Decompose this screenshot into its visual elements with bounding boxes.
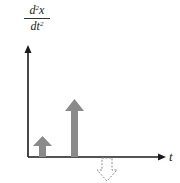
x-axis — [28, 154, 166, 161]
x-axis-arrowhead-icon — [158, 154, 166, 161]
y-axis-arrowhead-icon — [25, 45, 32, 53]
x-axis-label: t — [169, 149, 173, 165]
y-axis-label-numerator: d2x — [22, 4, 52, 17]
y-axis-label-denominator: dt2 — [22, 20, 52, 33]
large-positive-impulse — [65, 99, 84, 157]
up-arrow-icon — [65, 99, 84, 157]
y-axis — [25, 45, 32, 157]
negative-impulse — [97, 158, 117, 181]
down-arrow-dashed-icon — [97, 158, 117, 181]
up-arrow-icon — [33, 136, 52, 157]
y-axis-label: d2x dt2 — [22, 4, 52, 33]
small-positive-impulse — [33, 136, 52, 157]
